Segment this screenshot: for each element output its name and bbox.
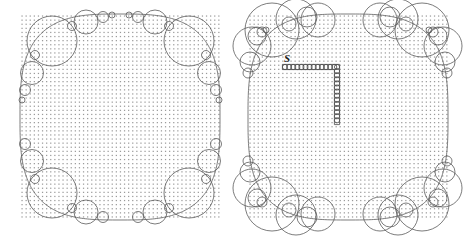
lattice-dot (50, 171, 51, 172)
lattice-dot (426, 93, 427, 94)
lattice-dot (438, 52, 439, 53)
lattice-dot (157, 81, 158, 82)
lattice-dot (344, 212, 345, 213)
lattice-dot (426, 126, 427, 127)
lattice-dot (295, 97, 296, 98)
lattice-dot (202, 167, 203, 168)
lattice-dot (434, 126, 435, 127)
lattice-dot (274, 143, 275, 144)
lattice-dot (132, 126, 133, 127)
lattice-dot (26, 102, 27, 103)
lattice-dot (218, 159, 219, 160)
lattice-dot (214, 44, 215, 45)
lattice-dot (54, 147, 55, 148)
lattice-dot (360, 216, 361, 217)
lattice-dot (319, 192, 320, 193)
lattice-dot (409, 143, 410, 144)
lattice-dot (274, 208, 275, 209)
lattice-dot (194, 118, 195, 119)
lattice-dot (249, 130, 250, 131)
lattice-dot (430, 155, 431, 156)
lattice-dot (38, 192, 39, 193)
lattice-dot (46, 89, 47, 90)
lattice-dot (405, 61, 406, 62)
lattice-dot (144, 32, 145, 33)
lattice-dot (165, 73, 166, 74)
lattice-dot (116, 24, 117, 25)
lattice-dot (95, 56, 96, 57)
lattice-dot (165, 106, 166, 107)
lattice-dot (438, 196, 439, 197)
lattice-dot (108, 69, 109, 70)
lattice-dot (389, 184, 390, 185)
lattice-dot (173, 130, 174, 131)
lattice-dot (75, 212, 76, 213)
lattice-dot (258, 61, 259, 62)
lattice-dot (132, 65, 133, 66)
lattice-dot (67, 48, 68, 49)
lattice-dot (157, 77, 158, 78)
lattice-dot (194, 126, 195, 127)
lattice-dot (26, 196, 27, 197)
lattice-dot (372, 114, 373, 115)
lattice-dot (426, 114, 427, 115)
lattice-dot (87, 204, 88, 205)
lattice-dot (348, 151, 349, 152)
lattice-dot (413, 40, 414, 41)
lattice-dot (161, 77, 162, 78)
lattice-dot (75, 134, 76, 135)
lattice-dot (311, 167, 312, 168)
lattice-dot (161, 134, 162, 135)
lattice-dot (434, 15, 435, 16)
lattice-dot (58, 40, 59, 41)
lattice-dot (71, 118, 72, 119)
lattice-dot (372, 81, 373, 82)
lattice-dot (62, 32, 63, 33)
lattice-dot (128, 216, 129, 217)
packing-circle (282, 17, 296, 31)
lattice-dot (136, 56, 137, 57)
lattice-dot (299, 188, 300, 189)
lattice-dot (356, 184, 357, 185)
lattice-dot (352, 48, 353, 49)
lattice-dot (278, 114, 279, 115)
lattice-dot (112, 24, 113, 25)
lattice-dot (303, 167, 304, 168)
lattice-dot (278, 65, 279, 66)
lattice-dot (62, 28, 63, 29)
lattice-dot (67, 69, 68, 70)
lattice-dot (327, 52, 328, 53)
lattice-dot (336, 208, 337, 209)
lattice-dot (194, 48, 195, 49)
lattice-dot (185, 28, 186, 29)
lattice-dot (136, 200, 137, 201)
lattice-dot (254, 77, 255, 78)
lattice-dot (299, 85, 300, 86)
lattice-dot (377, 171, 378, 172)
lattice-dot (409, 69, 410, 70)
lattice-dot (218, 216, 219, 217)
lattice-dot (372, 151, 373, 152)
lattice-dot (30, 130, 31, 131)
lattice-dot (348, 122, 349, 123)
lattice-dot (124, 192, 125, 193)
lattice-dot (83, 151, 84, 152)
lattice-dot (303, 155, 304, 156)
lattice-dot (71, 204, 72, 205)
lattice-dot (319, 77, 320, 78)
lattice-dot (266, 134, 267, 135)
lattice-dot (132, 147, 133, 148)
lattice-dot (103, 192, 104, 193)
lattice-dot (340, 36, 341, 37)
lattice-dot (381, 122, 382, 123)
lattice-dot (290, 188, 291, 189)
lattice-dot (344, 106, 345, 107)
lattice-dot (442, 20, 443, 21)
lattice-dot (331, 81, 332, 82)
lattice-dot (311, 216, 312, 217)
lattice-dot (54, 40, 55, 41)
lattice-dot (75, 147, 76, 148)
lattice-dot (26, 204, 27, 205)
lattice-dot (360, 114, 361, 115)
lattice-dot (26, 61, 27, 62)
